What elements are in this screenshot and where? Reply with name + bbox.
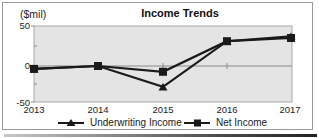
x-tick-label: 2013	[14, 104, 54, 115]
square-marker-icon	[223, 37, 231, 45]
y-tick-label: 50	[2, 20, 30, 31]
square-marker-icon	[30, 65, 38, 73]
triangle-marker-icon	[58, 118, 84, 128]
x-tick-label: 2014	[78, 104, 118, 115]
square-marker-icon	[94, 62, 102, 70]
square-marker-icon	[159, 68, 167, 76]
legend-label: Underwriting Income	[90, 117, 182, 128]
square-marker-icon	[184, 118, 210, 128]
legend-item-net-income: Net Income	[184, 117, 267, 128]
legend-label: Net Income	[216, 117, 267, 128]
square-marker-icon	[287, 34, 295, 42]
x-tick-label: 2017	[270, 104, 310, 115]
x-tick-label: 2015	[143, 104, 183, 115]
x-tick-label: 2016	[207, 104, 247, 115]
y-tick-label: 0	[2, 60, 30, 71]
chart-legend: Underwriting Income Net Income	[0, 117, 319, 129]
legend-item-underwriting-income: Underwriting Income	[58, 117, 182, 128]
